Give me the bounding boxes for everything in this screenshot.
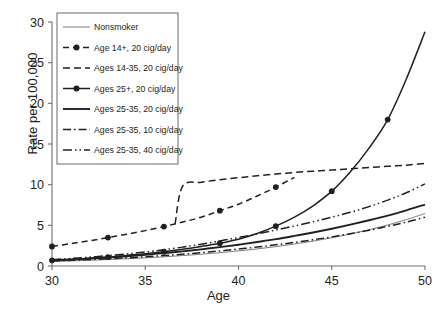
y-tick-label: 10 (30, 178, 44, 192)
y-tick-label: 30 (30, 16, 44, 30)
x-tick-label: 30 (45, 274, 59, 288)
data-point-marker (385, 117, 391, 123)
y-tick-label: 5 (37, 219, 44, 233)
data-point-marker (49, 244, 55, 250)
data-point-marker (105, 235, 111, 241)
x-tick-label: 50 (418, 274, 432, 288)
legend-label: Ages 25-35, 10 cig/day (94, 125, 184, 135)
series-path (52, 184, 425, 260)
series-line (49, 177, 294, 249)
data-point-marker (329, 188, 335, 194)
series-line (52, 205, 425, 261)
series-path (52, 177, 294, 246)
data-point-marker (217, 208, 223, 214)
x-tick-label: 40 (232, 274, 246, 288)
series-line (52, 184, 425, 260)
y-tick-label: 20 (30, 97, 44, 111)
legend-label: Ages 25-35, 20 cig/day (94, 104, 184, 114)
y-tick-label: 15 (30, 138, 44, 152)
y-tick-label: 0 (37, 260, 44, 274)
data-point-marker (273, 184, 279, 190)
y-tick-label: 25 (30, 56, 44, 70)
x-tick-label: 45 (325, 274, 339, 288)
legend-label: Age 14+, 20 cig/day (94, 43, 172, 53)
plot-area: 0510152025303035404550 NonsmokerAge 14+,… (0, 0, 437, 314)
series-path (52, 205, 425, 261)
legend-label: Ages 25-35, 40 cig/day (94, 145, 184, 155)
data-point-marker (161, 224, 167, 230)
legend-marker-sample (74, 86, 80, 92)
chart-legend: NonsmokerAge 14+, 20 cig/dayAges 14-35, … (57, 13, 184, 164)
legend-label: Ages 14-35, 20 cig/day (94, 63, 184, 73)
rate-vs-age-chart: Rate per 100,000 Age 0510152025303035404… (0, 0, 437, 314)
legend-marker-sample (74, 45, 80, 51)
legend-label: Ages 25+, 20 cig/day (94, 84, 176, 94)
x-tick-label: 35 (138, 274, 152, 288)
data-point-marker (273, 223, 279, 229)
legend-label: Nonsmoker (94, 22, 139, 32)
